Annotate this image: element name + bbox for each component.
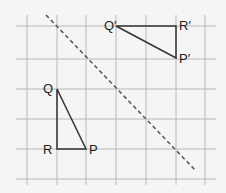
label-q-prime: Q′ bbox=[104, 19, 117, 32]
mirror-line bbox=[46, 15, 196, 171]
reflection-diagram: Q R P Q′ R′ P′ bbox=[0, 0, 226, 193]
label-q: Q bbox=[43, 82, 53, 95]
label-p: P bbox=[89, 143, 98, 156]
label-p-prime: P′ bbox=[179, 52, 190, 65]
label-r-prime: R′ bbox=[179, 19, 191, 32]
label-r: R bbox=[43, 143, 52, 156]
grid bbox=[16, 15, 216, 185]
